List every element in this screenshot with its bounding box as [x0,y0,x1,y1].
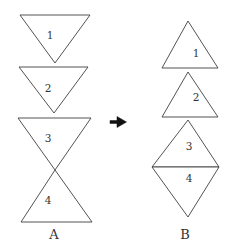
triangle-up-a4 [21,170,92,222]
group-caption-a: A [48,227,59,242]
triangle-number-label: 1 [47,29,54,41]
triangle-number-label: 3 [186,140,193,152]
triangle-down-a3 [18,118,91,170]
diagram-canvas: 1234A1234B [0,0,231,250]
group-caption-b: B [180,227,190,242]
triangle-diagram: 1234A1234B [0,0,231,250]
triangle-number-label: 1 [193,47,200,59]
triangle-number-label: 2 [45,82,52,94]
triangle-number-label: 4 [45,194,52,206]
triangle-up-b2 [162,72,218,117]
triangle-down-a1 [20,15,90,63]
triangle-number-label: 2 [193,91,200,103]
right-arrow-icon [110,117,127,128]
group-a: 1234A [18,15,92,242]
group-b: 1234B [152,21,219,242]
triangle-number-label: 3 [45,132,52,144]
triangle-number-label: 4 [186,172,193,184]
triangle-down-a2 [19,67,88,113]
triangle-up-b1 [162,21,218,68]
